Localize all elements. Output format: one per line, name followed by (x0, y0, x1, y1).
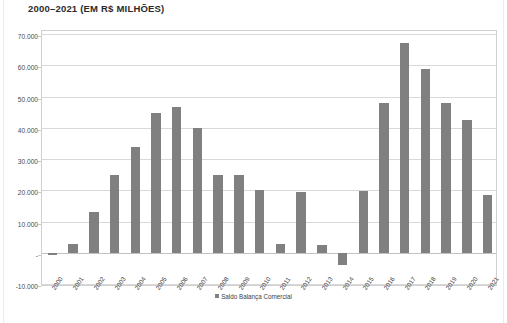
x-axis-tick-labels: 2000200120022003200420052006200720082009… (41, 287, 497, 313)
bar (441, 103, 451, 253)
bar (213, 175, 223, 253)
bar (255, 190, 265, 253)
bar (421, 69, 431, 252)
bar (110, 175, 120, 253)
y-axis-tick-label: -10.000 (16, 283, 38, 290)
bar (462, 120, 472, 253)
bar-chart: 2000–2021 (EM R$ MILHÕES) 70.00060.00050… (0, 0, 507, 323)
bar (48, 253, 58, 255)
y-axis-tick-label: 60.000 (18, 64, 38, 71)
page-edge-right-rule (503, 0, 504, 323)
y-axis-tick-label: 40.000 (18, 126, 38, 133)
bars-group (42, 31, 496, 285)
chart-title: 2000–2021 (EM R$ MILHÕES) (28, 3, 164, 14)
plot-area (41, 30, 497, 286)
bar (379, 103, 389, 252)
bar (317, 245, 327, 253)
y-axis-tick-label: 30.000 (18, 158, 38, 165)
bar (400, 43, 410, 252)
y-axis-tick-label: 10.000 (18, 220, 38, 227)
y-axis-tick-label: 50.000 (18, 95, 38, 102)
bar (276, 244, 286, 253)
y-axis-tick-label: 20.000 (18, 189, 38, 196)
y-axis-tick-label: 70.000 (18, 33, 38, 40)
bar (359, 191, 369, 253)
bar (68, 244, 78, 252)
bar (338, 253, 348, 266)
legend-entry: Saldo Balança Comercial (215, 293, 292, 300)
bar (193, 128, 203, 253)
bar (234, 175, 244, 253)
chart-legend: Saldo Balança Comercial (0, 292, 507, 300)
bar (131, 147, 141, 253)
bar (89, 212, 99, 253)
bar (483, 195, 493, 253)
bar (151, 113, 161, 253)
bar (172, 107, 182, 252)
legend-entry-label: Saldo Balança Comercial (221, 293, 292, 300)
legend-swatch-icon (215, 294, 219, 298)
bar (296, 192, 306, 253)
y-axis-tick-labels: 70.00060.00050.00040.00030.00020.00010.0… (0, 30, 38, 286)
